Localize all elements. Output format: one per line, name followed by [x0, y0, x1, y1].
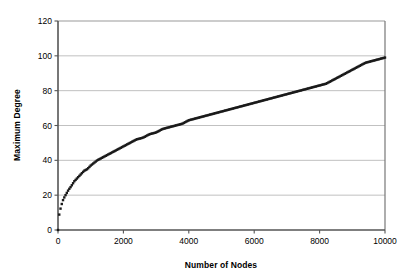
data-marker — [58, 213, 60, 215]
x-tick-label-4000: 4000 — [179, 236, 198, 246]
data-marker — [59, 207, 61, 209]
y-tick-label-60: 60 — [43, 121, 53, 131]
maximum-degree-scatter-chart: 020406080100120 0200040006000800010000 N… — [0, 0, 413, 279]
y-axis-title: Maximum Degree — [12, 89, 22, 161]
data-marker — [64, 194, 66, 196]
data-marker — [66, 192, 68, 194]
x-tick-label-2000: 2000 — [114, 236, 133, 246]
y-tick-label-40: 40 — [43, 155, 53, 165]
chart-background — [0, 0, 413, 279]
y-tick-label-0: 0 — [47, 225, 52, 235]
y-tick-label-100: 100 — [38, 51, 52, 61]
x-tick-label-6000: 6000 — [245, 236, 264, 246]
x-tick-label-8000: 8000 — [310, 236, 329, 246]
x-tick-label-0: 0 — [56, 236, 61, 246]
data-marker — [62, 199, 64, 201]
y-tick-label-120: 120 — [38, 16, 52, 26]
y-tick-label-20: 20 — [43, 190, 53, 200]
data-marker — [57, 229, 59, 231]
x-axis-title: Number of Nodes — [185, 260, 258, 270]
x-tick-label-10000: 10000 — [373, 236, 397, 246]
chart-container: 020406080100120 0200040006000800010000 N… — [0, 0, 413, 279]
data-marker — [63, 196, 65, 198]
data-marker — [384, 56, 386, 58]
data-marker — [61, 203, 63, 205]
y-tick-label-80: 80 — [43, 86, 53, 96]
